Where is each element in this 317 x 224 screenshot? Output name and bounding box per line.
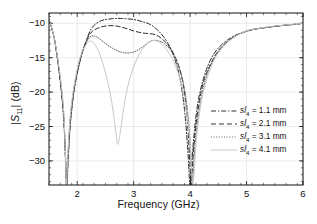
series-line-3 [49,19,303,184]
legend-label-1: sl4 = 2.1 mm [240,118,286,130]
legend-swatch-dashed [211,119,237,129]
legend-swatch-dotted [211,132,237,142]
legend-swatch-solid [211,145,237,155]
figure-s11-vs-frequency: Frequency (GHz) |S11| (dB) sl4 = 1.1 mm … [0,0,317,224]
legend-item-3[interactable]: sl4 = 4.1 mm [211,143,303,156]
legend-item-1[interactable]: sl4 = 2.1 mm [211,117,303,130]
legend-item-0[interactable]: sl4 = 1.1 mm [211,104,303,117]
y-tick-label-1: −15 [17,52,45,63]
x-tick-label-3: 5 [235,188,259,199]
legend-label-0: sl4 = 1.1 mm [240,105,286,117]
x-axis-title: Frequency (GHz) [0,198,317,210]
series-line-1 [49,19,303,185]
y-tick-label-0: −10 [17,17,45,28]
x-tick-label-0: 2 [65,188,89,199]
legend: sl4 = 1.1 mm sl4 = 2.1 mm sl4 = 3.1 mm s… [211,104,303,156]
x-tick-label-2: 4 [178,188,202,199]
legend-swatch-dash-dot [211,106,237,116]
y-tick-label-4: −30 [17,155,45,166]
x-tick-label-1: 3 [122,188,146,199]
legend-label-2: sl4 = 3.1 mm [240,131,286,143]
x-tick-label-4: 6 [291,188,315,199]
y-axis-title: |S11| (dB) [9,53,23,153]
legend-item-2[interactable]: sl4 = 3.1 mm [211,130,303,143]
y-tick-label-3: −25 [17,121,45,132]
y-tick-label-2: −20 [17,86,45,97]
legend-label-3: sl4 = 4.1 mm [240,144,286,156]
